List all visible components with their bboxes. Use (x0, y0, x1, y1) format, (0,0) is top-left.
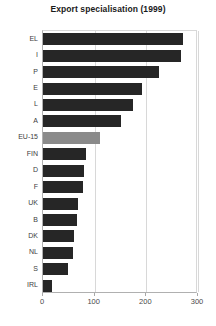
y-label-b: B (0, 215, 38, 224)
bar-nl (43, 247, 73, 259)
bar-i (43, 50, 181, 62)
bar-row (43, 195, 196, 211)
bar-f (43, 181, 83, 193)
y-label-p: P (0, 67, 38, 76)
bar-row (43, 64, 196, 80)
bar-row (43, 163, 196, 179)
x-tick-label-300: 300 (182, 297, 212, 307)
tickmark-0 (42, 293, 43, 296)
bar-dk (43, 230, 74, 242)
bar-row (43, 31, 196, 47)
bar-e (43, 83, 142, 95)
chart-title: Export specialisation (1999) (0, 4, 216, 15)
bar-fin (43, 148, 86, 160)
bar-row (43, 97, 196, 113)
y-label-f: F (0, 182, 38, 191)
y-label-d: D (0, 165, 38, 174)
bar-s (43, 263, 68, 275)
bar-row (43, 179, 196, 195)
y-label-uk: UK (0, 198, 38, 207)
y-label-l: L (0, 99, 38, 108)
y-label-e: E (0, 83, 38, 92)
y-label-fin: FIN (0, 149, 38, 158)
bar-row (43, 261, 196, 277)
y-label-el: EL (0, 34, 38, 43)
bar-a (43, 115, 121, 127)
y-label-s: S (0, 264, 38, 273)
bar-row (43, 212, 196, 228)
y-label-nl: NL (0, 247, 38, 256)
bar-d (43, 165, 84, 177)
bar-eu-15 (43, 132, 100, 144)
tickmark-300 (197, 293, 198, 296)
export-specialisation-chart: Export specialisation (1999) ELIPELAEU-1… (0, 0, 216, 326)
tickmark-200 (145, 293, 146, 296)
bar-row (43, 278, 196, 294)
bar-l (43, 99, 133, 111)
bar-irl (43, 280, 52, 292)
tickmark-100 (94, 293, 95, 296)
bar-row (43, 245, 196, 261)
bar-p (43, 66, 159, 78)
y-label-eu-15: EU-15 (0, 132, 38, 141)
bar-row (43, 146, 196, 162)
x-tick-label-0: 0 (27, 297, 57, 307)
y-label-dk: DK (0, 231, 38, 240)
y-label-i: I (0, 50, 38, 59)
bar-row (43, 130, 196, 146)
bar-b (43, 214, 77, 226)
bar-row (43, 228, 196, 244)
bar-el (43, 33, 183, 45)
gridline-300 (198, 31, 199, 292)
plot-area (42, 30, 197, 293)
x-tick-label-200: 200 (130, 297, 160, 307)
bar-row (43, 113, 196, 129)
bar-row (43, 80, 196, 96)
bar-uk (43, 198, 78, 210)
y-label-irl: IRL (0, 280, 38, 289)
y-label-a: A (0, 116, 38, 125)
x-tick-label-100: 100 (79, 297, 109, 307)
bar-row (43, 47, 196, 63)
